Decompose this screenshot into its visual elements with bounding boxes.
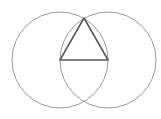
equilateral-triangle <box>60 18 108 60</box>
euclid-construction-diagram <box>0 0 161 119</box>
